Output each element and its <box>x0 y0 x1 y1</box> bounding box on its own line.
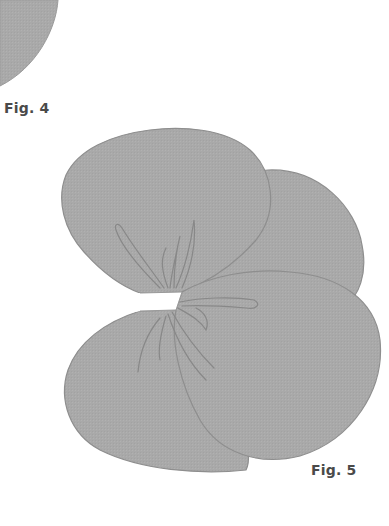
figure-4-label: Fig. 4 <box>4 100 50 116</box>
fig4-petal <box>0 0 58 86</box>
pattern-diagram <box>0 0 389 526</box>
figure-5-label: Fig. 5 <box>311 462 357 478</box>
